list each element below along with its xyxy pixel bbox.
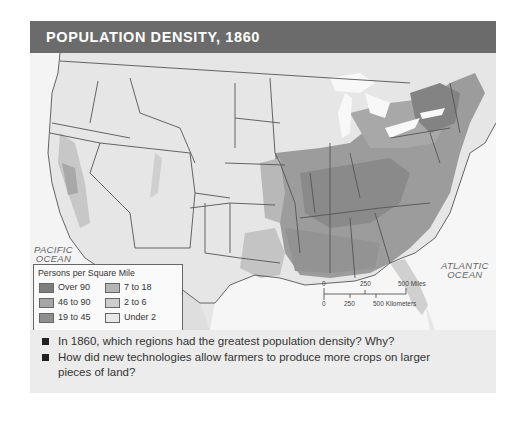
- legend-item: 19 to 45: [39, 311, 91, 323]
- legend-item: 2 to 6: [105, 296, 147, 308]
- legend-item: Under 2: [105, 311, 156, 323]
- legend-swatch: [39, 283, 54, 293]
- legend-swatch: [39, 313, 54, 323]
- legend-item: 46 to 90: [39, 296, 91, 308]
- title-bar: POPULATION DENSITY, 1860: [30, 21, 496, 53]
- legend-swatch: [105, 298, 120, 308]
- bullet-icon: [42, 338, 49, 345]
- map-figure: POPULATION DENSITY, 1860: [30, 21, 496, 393]
- legend-swatch: [105, 313, 120, 323]
- legend-swatch: [39, 298, 54, 308]
- legend-title: Persons per Square Mile: [38, 268, 135, 278]
- legend-item: 7 to 18: [105, 281, 152, 293]
- question-item: How did new technologies allow farmers t…: [58, 350, 458, 380]
- legend-item: Over 90: [39, 281, 90, 293]
- map-title: POPULATION DENSITY, 1860: [46, 29, 260, 45]
- atlantic-ocean-label: ATLANTIC OCEAN: [441, 261, 489, 279]
- review-questions: In 1860, which regions had the greatest …: [30, 330, 496, 393]
- bullet-icon: [42, 354, 49, 361]
- pacific-ocean-label: PACIFIC OCEAN: [34, 245, 73, 263]
- scale-bar: 0 250 500 Miles 0 250 500 Kilometers: [320, 278, 430, 312]
- question-item: In 1860, which regions had the greatest …: [58, 334, 458, 349]
- legend-swatch: [105, 283, 120, 293]
